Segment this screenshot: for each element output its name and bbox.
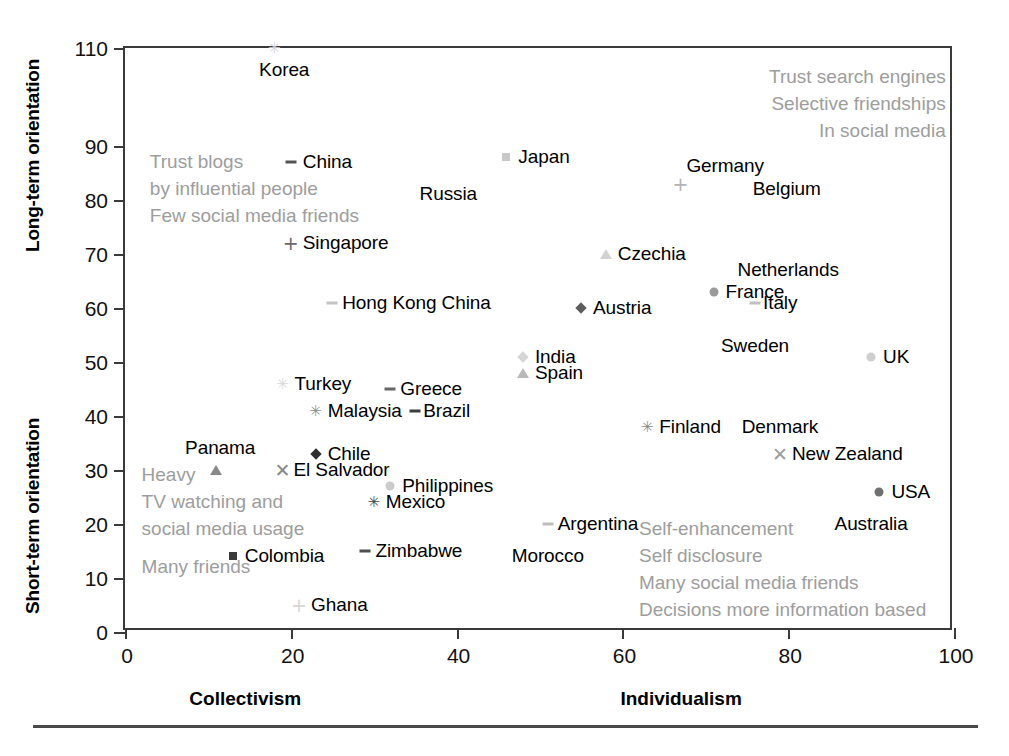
data-marker-philippines [386,482,395,491]
data-marker-uk [867,352,876,361]
data-label-belgium: Belgium [753,178,821,200]
data-marker-hong-kong-china [327,301,338,304]
data-marker-italy [750,301,761,304]
x-tick-label-0: 0 [121,644,133,668]
y-tick-30: 30 [114,470,125,472]
data-marker-usa [875,487,884,496]
data-label-russia: Russia [420,183,477,205]
data-label-hong-kong-china: Hong Kong China [342,292,491,314]
data-label-malaysia: Malaysia [328,400,402,422]
data-marker-zimbabwe [360,549,371,552]
data-marker-argentina [542,522,553,525]
data-label-el-salvador: El Salvador [294,459,390,481]
y-tick-110: 110 [114,48,125,50]
annotation-bottom-right-line-2: Self disclosure [639,545,763,567]
y-tick-label-0: 0 [96,621,108,645]
data-label-turkey: Turkey [295,373,352,395]
y-tick-10: 10 [114,578,125,580]
data-label-australia: Australia [835,513,908,535]
x-tick-label-100: 100 [938,644,973,668]
y-tick-label-10: 10 [85,567,108,591]
x-axis-label-individualism: Individualism [620,688,741,710]
annotation-many-friends-line-1: Many friends [142,556,251,578]
y-tick-80: 80 [114,200,125,202]
data-label-morocco: Morocco [512,545,584,567]
y-tick-label-90: 90 [85,135,108,159]
data-label-panama: Panama [185,437,255,459]
data-label-korea: Korea [259,59,309,81]
data-marker-greece [385,388,396,391]
annotation-bottom-left-line-3: social media usage [142,518,305,540]
data-label-denmark: Denmark [742,416,818,438]
annotation-bottom-left-line-2: TV watching and [142,491,284,513]
annotation-bottom-left-line-1: Heavy [142,464,196,486]
y-tick-label-30: 30 [85,459,108,483]
data-label-italy: Italy [763,292,797,314]
data-marker-japan [502,153,510,161]
data-label-brazil: Brazil [423,400,470,422]
y-tick-label-50: 50 [85,351,108,375]
y-tick-label-40: 40 [85,405,108,429]
x-tick-label-60: 60 [613,644,636,668]
data-label-singapore: Singapore [303,232,389,254]
data-marker-czechia [600,249,612,259]
data-label-spain: Spain [535,362,583,384]
data-label-china: China [303,151,352,173]
y-tick-70: 70 [114,254,125,256]
y-axis-title-long-term: Long-term orientation [22,59,44,252]
scatter-chart-figure: Long-term orientation Short-term orienta… [0,0,1009,756]
data-label-sweden: Sweden [721,335,789,357]
x-tick-0: 0 [125,628,127,639]
y-tick-40: 40 [114,416,125,418]
x-tick-80: 80 [788,628,790,639]
x-tick-label-20: 20 [281,644,304,668]
y-tick-20: 20 [114,524,125,526]
y-tick-label-110: 110 [75,37,108,61]
x-axis-label-collectivism: Collectivism [189,688,301,710]
y-tick-50: 50 [114,362,125,364]
data-label-austria: Austria [593,297,651,319]
data-label-finland: Finland [659,416,721,438]
data-label-germany: Germany [686,155,763,177]
x-tick-label-80: 80 [779,644,802,668]
annotation-top-left-line-3: Few social media friends [150,205,359,227]
data-marker-panama [210,465,222,475]
data-label-colombia: Colombia [245,545,324,567]
data-label-japan: Japan [518,146,569,168]
x-tick-100: 100 [954,628,956,639]
annotation-top-right-line-1: Trust search engines [769,66,946,88]
annotation-top-right-line-3: In social media [819,120,946,142]
annotation-top-left-line-1: Trust blogs [150,151,243,173]
data-label-zimbabwe: Zimbabwe [375,540,462,562]
x-tick-40: 40 [457,628,459,639]
data-label-ghana: Ghana [311,594,368,616]
data-marker-brazil [410,409,421,412]
annotation-top-right-line-2: Selective friendships [771,93,945,115]
data-label-greece: Greece [400,378,462,400]
y-axis-title-short-term: Short-term orientation [22,418,44,614]
data-label-usa: USA [891,481,930,503]
y-tick-label-70: 70 [85,243,108,267]
data-marker-spain [517,368,529,378]
annotation-bottom-right-line-4: Decisions more information based [639,599,926,621]
y-tick-90: 90 [114,146,125,148]
data-marker-india [517,351,528,362]
plot-area: 0102030405060708090110 020406080100 ✳Kor… [123,46,952,630]
y-tick-0: 0 [114,632,125,634]
y-tick-label-80: 80 [85,189,108,213]
y-tick-label-20: 20 [85,513,108,537]
x-tick-20: 20 [291,628,293,639]
x-tick-60: 60 [622,628,624,639]
caption-divider [33,725,978,728]
y-tick-label-60: 60 [85,297,108,321]
y-tick-60: 60 [114,308,125,310]
x-tick-label-40: 40 [447,644,470,668]
data-label-new-zealand: New Zealand [792,443,903,465]
data-label-argentina: Argentina [558,513,638,535]
data-marker-france [709,287,718,296]
data-label-netherlands: Netherlands [738,259,839,281]
data-marker-austria [575,302,586,313]
data-label-uk: UK [883,346,909,368]
annotation-bottom-right-line-1: Self-enhancement [639,518,793,540]
data-marker-china [285,161,296,164]
